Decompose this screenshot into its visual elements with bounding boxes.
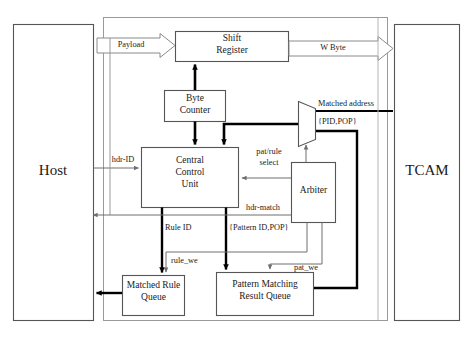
byte-counter-label-line2: Counter: [164, 106, 226, 116]
hdr-id-label: hdr-ID: [104, 156, 142, 165]
matched-address-label: Matched address: [318, 100, 396, 109]
matched-rule-queue-label-line2: Queue: [122, 293, 185, 303]
ccu-label-line3: Unit: [141, 180, 239, 190]
ccu-label-line2: Control: [141, 168, 239, 178]
pat-rule-select-label-line1: pat/rule: [246, 148, 292, 157]
host-label: Host: [13, 163, 93, 179]
pattern-result-queue-label-line1: Pattern Matching: [216, 280, 314, 290]
mux-to-ccu-path: [224, 124, 298, 145]
mux-block: [299, 102, 316, 147]
matched-rule-queue-label-line1: Matched Rule: [117, 281, 190, 291]
w-byte-label: W Byte: [305, 44, 361, 53]
ccu-label-line1: Central: [141, 156, 239, 166]
tcam-label: TCAM: [394, 163, 460, 179]
arbiter-label: Arbiter: [291, 186, 336, 196]
shift-register-label-line2: Register: [175, 46, 289, 56]
rule-we-label: rule_we: [171, 257, 211, 266]
pattern-result-queue-label-line2: Result Queue: [216, 292, 314, 302]
diagram-canvas: Host TCAM Shift Register Byte Counter Ce…: [0, 0, 473, 339]
pid-pop-label: {PID,POP}: [318, 118, 378, 127]
byte-counter-label-line1: Byte: [164, 94, 226, 104]
pat-rule-select-label-line2: select: [246, 159, 292, 168]
payload-label: Payload: [104, 41, 158, 50]
pat-we-label: pat_we: [294, 264, 332, 273]
pattern-id-pop-label: {Pattern ID,POP}: [229, 224, 303, 233]
rule-id-label: Rule ID: [165, 224, 207, 233]
shift-register-label-line1: Shift: [175, 34, 289, 44]
hdr-match-label: hdr-match: [236, 204, 290, 213]
